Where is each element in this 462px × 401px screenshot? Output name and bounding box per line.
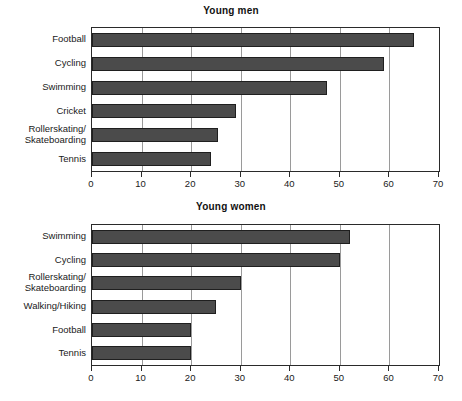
x-tick-label: 20	[185, 372, 196, 383]
bar	[92, 33, 414, 47]
x-tick	[438, 172, 439, 177]
bar	[92, 346, 191, 360]
x-tick-label: 10	[135, 178, 146, 189]
bar-row	[92, 81, 439, 95]
bar-row	[92, 57, 439, 71]
x-tick	[388, 172, 389, 177]
x-tick	[190, 172, 191, 177]
bar	[92, 323, 191, 337]
category-label: Cycling	[0, 254, 86, 265]
x-tick-label: 70	[433, 372, 444, 383]
x-tick-label: 50	[334, 372, 345, 383]
x-tick-label: 30	[234, 372, 245, 383]
plot-area-young-men	[91, 27, 440, 172]
category-label: Football	[0, 33, 86, 44]
x-tick	[339, 366, 340, 371]
chart-young-men: Young men FootballCyclingSwimmingCricket…	[0, 0, 462, 196]
x-tick	[141, 366, 142, 371]
bar	[92, 152, 211, 166]
category-label: Cycling	[0, 57, 86, 68]
bar-chart-figure: Young men FootballCyclingSwimmingCricket…	[0, 0, 462, 401]
bar	[92, 104, 236, 118]
x-tick	[190, 366, 191, 371]
bar-row	[92, 323, 439, 337]
x-tick-label: 40	[284, 372, 295, 383]
x-tick	[91, 172, 92, 177]
x-tick	[388, 366, 389, 371]
x-tick-label: 50	[334, 178, 345, 189]
category-label: Swimming	[0, 81, 86, 92]
bar-row	[92, 152, 439, 166]
bar	[92, 230, 350, 244]
x-tick-label: 0	[88, 372, 93, 383]
x-tick-label: 70	[433, 178, 444, 189]
bar-row	[92, 33, 439, 47]
category-label: Tennis	[0, 153, 86, 164]
bar-row	[92, 300, 439, 314]
chart-young-women: Young women SwimmingCyclingRollerskating…	[0, 196, 462, 401]
bar	[92, 57, 384, 71]
bar	[92, 253, 340, 267]
x-tick-label: 40	[284, 178, 295, 189]
x-tick	[289, 172, 290, 177]
category-labels-young-men: FootballCyclingSwimmingCricketRollerskat…	[0, 27, 86, 172]
category-label: Cricket	[0, 105, 86, 116]
plot-area-young-women	[91, 224, 440, 366]
x-axis-young-men: 010203040506070	[91, 172, 440, 194]
bars-young-men	[92, 28, 439, 171]
bar	[92, 300, 216, 314]
bar-row	[92, 128, 439, 142]
x-tick	[141, 172, 142, 177]
category-labels-young-women: SwimmingCyclingRollerskating/ Skateboard…	[0, 224, 86, 366]
x-tick	[240, 172, 241, 177]
x-tick-label: 60	[383, 178, 394, 189]
bar-row	[92, 346, 439, 360]
x-tick-label: 30	[234, 178, 245, 189]
bar	[92, 128, 218, 142]
bar-row	[92, 104, 439, 118]
bars-young-women	[92, 225, 439, 365]
x-tick-label: 0	[88, 178, 93, 189]
chart-title-young-men: Young men	[0, 5, 462, 16]
bar-row	[92, 276, 439, 290]
x-axis-young-women: 010203040506070	[91, 366, 440, 388]
x-tick-label: 60	[383, 372, 394, 383]
category-label: Rollerskating/ Skateboarding	[0, 271, 86, 293]
x-tick	[289, 366, 290, 371]
x-tick	[438, 366, 439, 371]
category-label: Tennis	[0, 347, 86, 358]
x-tick-label: 10	[135, 372, 146, 383]
category-label: Walking/Hiking	[0, 300, 86, 311]
x-tick	[240, 366, 241, 371]
x-tick	[339, 172, 340, 177]
chart-title-young-women: Young women	[0, 201, 462, 212]
category-label: Football	[0, 324, 86, 335]
bar-row	[92, 230, 439, 244]
category-label: Swimming	[0, 230, 86, 241]
category-label: Rollerskating/ Skateboarding	[0, 123, 86, 145]
bar	[92, 276, 241, 290]
x-tick	[91, 366, 92, 371]
bar	[92, 81, 327, 95]
x-tick-label: 20	[185, 178, 196, 189]
bar-row	[92, 253, 439, 267]
